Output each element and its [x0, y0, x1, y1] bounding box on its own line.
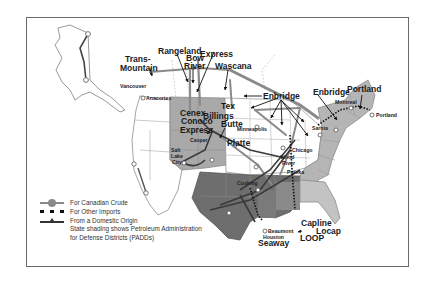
label-trans-mountain-2: Mountain: [120, 63, 158, 73]
label-enbridge-main: Enbridge: [263, 91, 300, 101]
label-casper: Casper: [190, 137, 208, 143]
label-chicago: Chicago: [292, 147, 312, 153]
label-city: City: [172, 159, 182, 165]
legend-note-line1: State shading shows Petroleum Administra…: [40, 225, 202, 234]
label-minneapolis: Minneapolis: [237, 126, 267, 132]
label-portland-pipeline: Portland: [347, 84, 381, 94]
label-express-south: Express: [180, 125, 213, 135]
label-express: Express: [200, 49, 233, 59]
legend-item-imports: For Other Imports: [40, 207, 202, 216]
canadian-crude-symbol-icon: [40, 199, 64, 207]
label-wascana: Wascana: [215, 61, 252, 71]
label-patoka: Patoka: [287, 169, 304, 175]
legend-label: For Canadian Crude: [70, 199, 128, 206]
domestic-origin-symbol-icon: [40, 217, 64, 225]
label-platte: Platte: [227, 138, 250, 148]
legend-note-line2: for Defense Districts (PADDs): [40, 234, 202, 243]
legend-item-canadian: For Canadian Crude: [40, 198, 202, 207]
label-anacortes: Anacortes: [146, 95, 171, 101]
legend-label: For Other Imports: [70, 208, 120, 215]
other-imports-symbol-icon: [40, 208, 64, 216]
label-vancouver: Vancouver: [120, 83, 146, 89]
alaska-outline: [55, 25, 125, 112]
label-river: River: [184, 61, 206, 71]
label-sarnia: Sarnia: [312, 125, 328, 131]
label-tex: Tex: [221, 101, 235, 111]
label-enbridge-east: Enbridge: [313, 87, 350, 97]
label-cushing: Cushing: [237, 180, 258, 186]
pipeline-map: Trans- Mountain Rangeland Bow River Expr…: [0, 0, 431, 285]
label-river-city: River: [282, 160, 295, 166]
map-legend: For Canadian Crude For Other Imports Fro…: [40, 198, 202, 242]
legend-label: From a Domestic Origin: [70, 217, 137, 224]
label-houston: Houston: [263, 234, 284, 240]
label-loop: LOOP: [300, 233, 324, 243]
label-billings: Billings: [203, 111, 234, 121]
label-portland-me: Portland: [376, 112, 397, 118]
legend-item-domestic: From a Domestic Origin: [40, 216, 202, 225]
label-montreal: Montreal: [335, 99, 357, 105]
